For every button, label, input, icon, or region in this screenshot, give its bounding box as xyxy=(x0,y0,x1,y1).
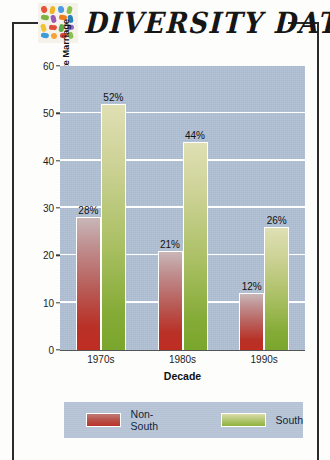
bar-non-south-1970s: 28% xyxy=(76,217,101,350)
legend-label: Non-South xyxy=(131,408,169,432)
bar-value-label: 52% xyxy=(103,92,123,103)
legend-entry-south: South xyxy=(221,413,303,427)
y-tick-mark xyxy=(56,65,60,66)
y-tick-label: 40 xyxy=(28,155,54,166)
plot-area: 28%52%21%44%12%26% xyxy=(60,66,305,350)
legend-swatch xyxy=(221,413,266,427)
y-tick-label: 50 xyxy=(28,108,54,119)
header: DIVERSITY DATA xyxy=(0,0,330,48)
bar-chart: Percent of Whites Favoring Laws against … xyxy=(20,55,312,455)
y-tick-mark xyxy=(56,113,60,114)
y-tick-mark xyxy=(56,302,60,303)
bar-value-label: 44% xyxy=(185,130,205,141)
bar-value-label: 12% xyxy=(242,281,262,292)
x-tick-label-1970s: 1970s xyxy=(87,354,114,365)
frame-right-rule xyxy=(317,22,319,460)
bar-value-label: 21% xyxy=(160,239,180,250)
x-tick-label-1980s: 1980s xyxy=(169,354,196,365)
legend-swatch xyxy=(86,413,121,427)
x-tick-label-1990s: 1990s xyxy=(251,354,278,365)
bar-south-1990s: 26% xyxy=(264,227,289,350)
bar-value-label: 28% xyxy=(78,205,98,216)
chart-legend: Non-SouthSouth xyxy=(64,402,303,438)
page-title: DIVERSITY DATA xyxy=(85,2,298,47)
bar-non-south-1980s: 21% xyxy=(158,251,183,350)
y-tick-label: 60 xyxy=(28,61,54,72)
y-tick-label: 20 xyxy=(28,250,54,261)
legend-entry-non-south: Non-South xyxy=(86,408,169,432)
legend-label: South xyxy=(276,414,303,426)
diversity-mosaic-logo-icon xyxy=(38,3,78,43)
gridline xyxy=(60,112,305,114)
bar-south-1980s: 44% xyxy=(183,142,208,350)
x-axis-title: Decade xyxy=(60,370,305,382)
x-axis-line xyxy=(60,350,305,351)
y-tick-mark xyxy=(56,207,60,208)
y-tick-mark xyxy=(56,255,60,256)
y-tick-label: 0 xyxy=(28,345,54,356)
frame-left-rule xyxy=(12,22,14,460)
y-tick-label: 10 xyxy=(28,297,54,308)
y-tick-mark xyxy=(56,160,60,161)
y-tick-label: 30 xyxy=(28,203,54,214)
bar-south-1970s: 52% xyxy=(101,104,126,350)
bar-value-label: 26% xyxy=(267,215,287,226)
bar-non-south-1990s: 12% xyxy=(239,293,264,350)
